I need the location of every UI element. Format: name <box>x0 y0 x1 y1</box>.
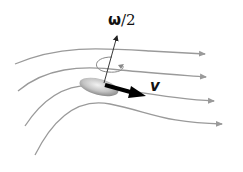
velocity-label: v <box>150 79 160 94</box>
streamline <box>35 103 222 155</box>
flow-diagram: ω/2 v <box>0 0 243 172</box>
velocity-arrowhead-icon <box>128 86 146 98</box>
streamlines <box>15 49 222 155</box>
omega-axis-arrow <box>104 36 117 83</box>
omega-label: ω/2 <box>108 13 136 28</box>
